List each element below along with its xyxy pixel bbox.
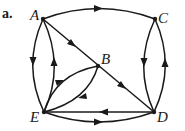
arrow-E-D [94,119,103,126]
label-B: B [101,51,110,67]
arrow-A-E [30,57,37,66]
edge-A-E [33,19,44,112]
arrow-D-C [162,58,169,67]
node-A [41,17,45,21]
label-A: A [29,7,40,23]
label-E: E [29,109,39,125]
node-C [153,17,157,21]
node-D [152,110,156,114]
directed-graph: a. A B C D E [0,0,185,131]
arrow-D-E [99,109,108,116]
arrow-E-A [51,57,58,66]
arrow-C-D [141,58,148,67]
label-D: D [156,109,168,125]
node-B [96,64,100,68]
node-E [42,110,46,114]
edge-C-D [144,19,155,112]
arrow-A-C [94,5,103,12]
edge-A-C [43,9,155,20]
label-C: C [158,10,169,26]
figure-tag: a. [2,6,13,21]
